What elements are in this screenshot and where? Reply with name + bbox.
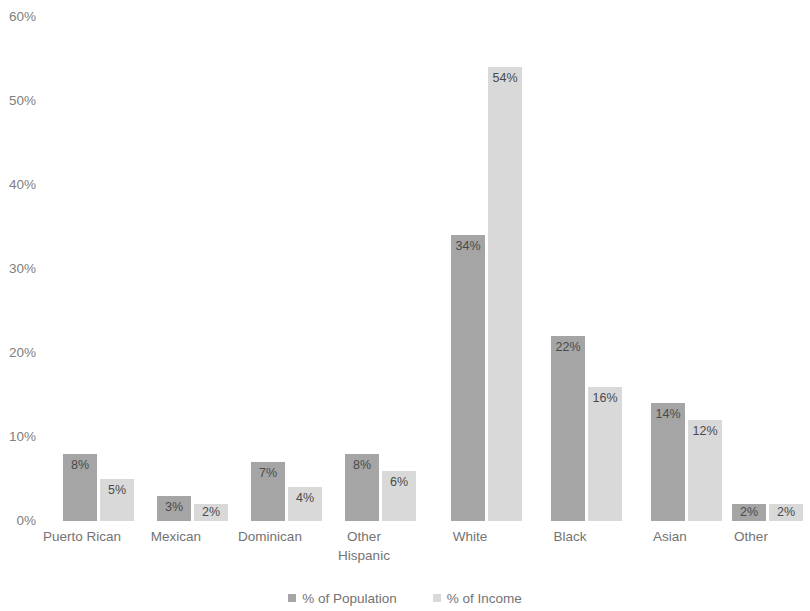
y-tick-label: 30% xyxy=(0,262,36,276)
chart-legend: % of Population % of Income xyxy=(0,588,810,608)
bar-value-label: 12% xyxy=(682,425,728,438)
legend-swatch-icon xyxy=(433,594,441,602)
bar-chart: 60% 50% 40% 30% 20% 10% 0% 8% 5% 3% xyxy=(0,0,810,611)
bar-income[interactable] xyxy=(588,387,622,521)
bar-value-label: 8% xyxy=(339,459,385,472)
bar-value-label: 22% xyxy=(545,341,591,354)
bar-value-label: 6% xyxy=(376,476,422,489)
legend-item-population[interactable]: % of Population xyxy=(288,591,397,606)
legend-label: % of Income xyxy=(447,591,522,606)
y-tick-label: 50% xyxy=(0,94,36,108)
y-tick-label: 20% xyxy=(0,346,36,360)
legend-swatch-icon xyxy=(288,594,296,602)
x-axis: Puerto Rican Mexican Dominican Other His… xyxy=(46,527,800,577)
bar-value-label: 2% xyxy=(188,506,234,519)
legend-label: % of Population xyxy=(302,591,397,606)
bar-value-label: 8% xyxy=(57,459,103,472)
y-tick-label: 0% xyxy=(0,514,36,528)
x-category-label: Other xyxy=(686,527,810,546)
bar-value-label: 5% xyxy=(94,484,140,497)
bar-income[interactable] xyxy=(488,67,522,521)
plot-area: 8% 5% 3% 2% 7% 4% xyxy=(46,0,800,521)
bar-value-label: 34% xyxy=(445,240,491,253)
y-tick-label: 60% xyxy=(0,10,36,24)
y-tick-label: 40% xyxy=(0,178,36,192)
bar-value-label: 2% xyxy=(763,506,809,519)
bar-value-label: 16% xyxy=(582,392,628,405)
bar-population[interactable] xyxy=(451,235,485,521)
bar-value-label: 14% xyxy=(645,408,691,421)
y-axis: 60% 50% 40% 30% 20% 10% 0% xyxy=(0,0,44,536)
legend-item-income[interactable]: % of Income xyxy=(433,591,522,606)
bar-value-label: 7% xyxy=(245,467,291,480)
bar-value-label: 4% xyxy=(282,492,328,505)
y-tick-label: 10% xyxy=(0,430,36,444)
bar-population[interactable] xyxy=(551,336,585,521)
bar-value-label: 54% xyxy=(482,72,528,85)
